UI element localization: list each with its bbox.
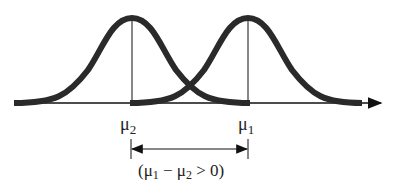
mu2-label: μ2 [120,114,136,137]
normal-distributions-diagram: μ2 μ1 (μ1 − μ2 > 0) [0,0,398,189]
difference-annotation: (μ1 − μ2 > 0) [138,161,224,182]
mu1-label: μ1 [238,114,254,137]
distribution-1-curve [130,18,362,103]
